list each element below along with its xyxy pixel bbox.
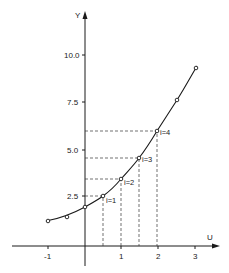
- data-point: [83, 205, 87, 209]
- annotation-i1: i=1: [106, 196, 116, 205]
- x-axis-label: U: [207, 233, 213, 242]
- chart: U Y -1 1 2 3 2.5 5.0 7.5 10.0: [0, 0, 229, 273]
- annotation-i3: i=3: [142, 155, 152, 164]
- data-point: [46, 219, 50, 223]
- y-ticks: 2.5 5.0 7.5 10.0: [64, 51, 85, 201]
- annotation-i2: i=2: [124, 178, 134, 187]
- x-tick-label: -1: [44, 252, 52, 261]
- x-tick-label: 3: [193, 252, 198, 261]
- data-point: [155, 129, 159, 133]
- x-axis-arrow-icon: [212, 244, 220, 249]
- y-tick-label: 5.0: [67, 146, 79, 155]
- x-tick-label: 2: [156, 252, 161, 261]
- data-point: [137, 156, 141, 160]
- annotation-i4: i=4: [160, 128, 170, 137]
- y-axis-label: Y: [75, 11, 81, 20]
- data-point: [119, 177, 123, 181]
- y-axis-arrow-icon: [83, 11, 88, 19]
- y-tick-label: 10.0: [64, 51, 80, 60]
- y-tick-label: 2.5: [67, 192, 79, 201]
- data-point: [65, 215, 69, 219]
- data-point: [175, 98, 179, 102]
- x-ticks: -1 1 2 3: [44, 246, 198, 261]
- data-point: [101, 194, 105, 198]
- y-tick-label: 7.5: [67, 98, 79, 107]
- x-tick-label: 1: [119, 252, 124, 261]
- data-point: [194, 66, 198, 70]
